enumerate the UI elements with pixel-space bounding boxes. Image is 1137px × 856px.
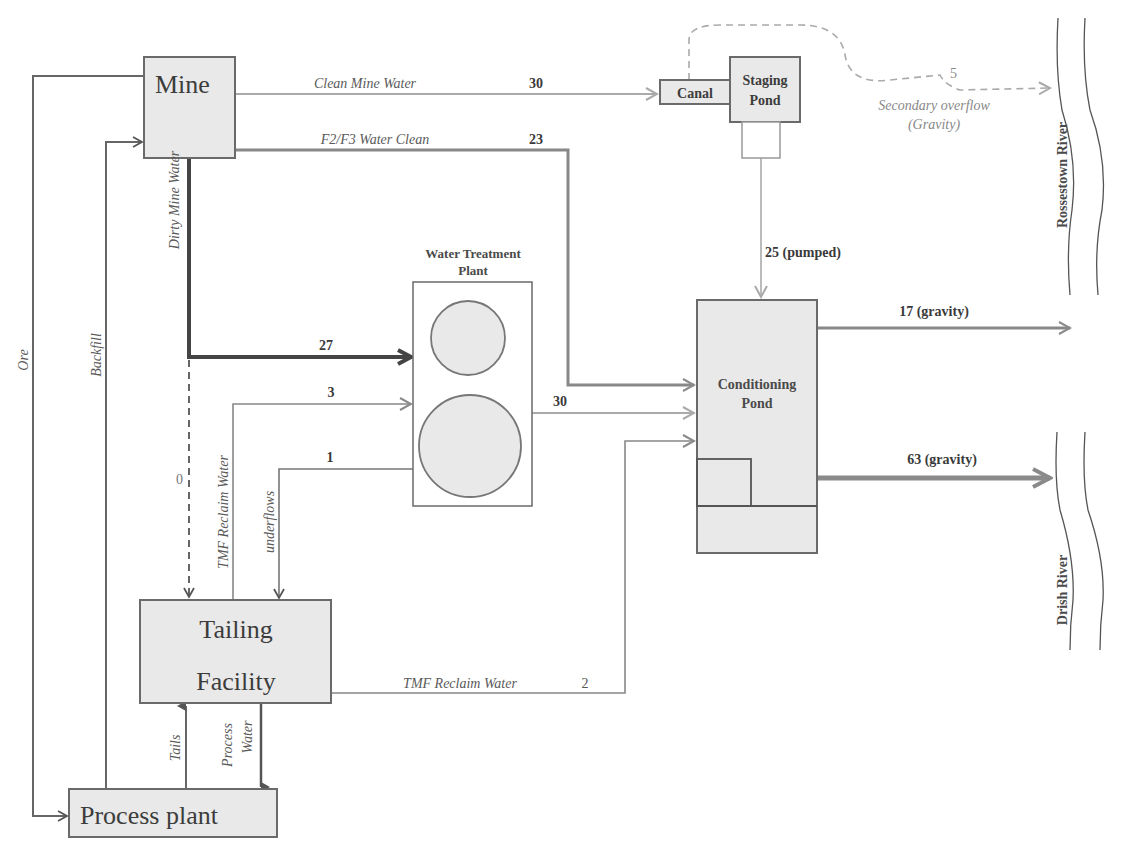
tmf-reclaim-to-wtp-label: TMF Reclaim Water (216, 455, 231, 569)
tmf-reclaim-to-wtp-line (233, 404, 411, 600)
conditioning-pond-label-1: Conditioning (718, 377, 797, 392)
staging-pond-label-1: Staging (742, 73, 787, 88)
ore-label: Ore (16, 349, 31, 370)
ore-flow-line (33, 76, 144, 816)
process-water-label-1: Process (220, 723, 235, 768)
dirty-mine-water-value: 27 (319, 338, 333, 353)
backfill-label: Backfill (89, 333, 104, 377)
wtp-label-1: Water Treatment (425, 246, 521, 261)
drish-river-label: Drish River (1055, 555, 1070, 625)
tailing-facility-label-1: Tailing (199, 615, 272, 644)
to-drish-value: 63 (gravity) (907, 452, 977, 468)
wtp-label-2: Plant (458, 263, 488, 278)
tailing-facility-label-2: Facility (196, 667, 275, 696)
wtp-to-conditioning-value: 30 (553, 394, 567, 409)
underflows-value: 1 (327, 450, 334, 465)
tmf-reclaim-to-conditioning-value: 2 (582, 676, 589, 691)
f2f3-water-value: 23 (529, 132, 543, 147)
conditioning-pond-label-2: Pond (741, 396, 772, 411)
secondary-overflow-label-1: Secondary overflow (878, 98, 990, 113)
water-flow-diagram: Mine Canal Staging Pond Water Treatment … (0, 0, 1137, 856)
process-plant-label: Process plant (80, 801, 219, 830)
secondary-overflow-value: 5 (950, 66, 957, 81)
wtp-tank-small (431, 301, 505, 375)
staging-pond-label-2: Pond (749, 93, 780, 108)
dirty-to-tailing-value: 0 (176, 472, 183, 487)
underflows-label: underflows (262, 490, 277, 553)
tmf-reclaim-to-conditioning-label: TMF Reclaim Water (403, 676, 517, 691)
clean-mine-water-value: 30 (529, 76, 543, 91)
underflows-line (279, 469, 413, 598)
secondary-overflow-label-2: (Gravity) (908, 117, 960, 133)
dirty-mine-water-line (189, 158, 411, 357)
backfill-flow-line (106, 142, 142, 789)
staging-pump-box (742, 122, 780, 158)
staging-pond-node (730, 57, 800, 122)
tmf-reclaim-to-wtp-value: 3 (328, 385, 335, 400)
clean-mine-water-label: Clean Mine Water (314, 76, 417, 91)
tails-label: Tails (168, 734, 183, 761)
process-water-label-2: Water (240, 720, 255, 753)
dirty-mine-water-label: Dirty Mine Water (167, 150, 182, 250)
to-rossestown-value: 17 (gravity) (899, 304, 969, 320)
conditioning-pond-node (697, 300, 817, 553)
f2f3-water-label: F2/F3 Water Clean (320, 132, 429, 147)
canal-label: Canal (677, 86, 713, 101)
mine-label: Mine (155, 70, 210, 99)
pumped-flow-value: 25 (pumped) (765, 245, 841, 261)
rossestown-river-label: Rossestown River (1055, 122, 1070, 228)
wtp-tank-large (419, 395, 521, 497)
